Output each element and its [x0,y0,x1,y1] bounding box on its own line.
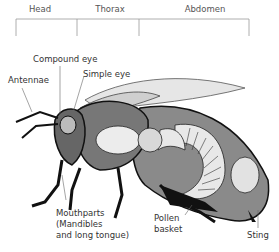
antennae-shape [16,112,58,138]
segment-brackets [16,19,249,36]
antennae-label: Antennae [8,75,49,85]
bee-anatomy-illustration [0,0,279,252]
pollen-basket-label-line1: Pollen [154,213,179,223]
pollen-basket-label-line2: basket [154,224,182,234]
compound-eye-shape [60,116,76,134]
mouthparts-label-line2: (Mandibles [56,219,102,229]
mouthparts-label-line1: Mouthparts [56,208,105,218]
sting-label: Sting [247,230,269,240]
simple-eye-label: Simple eye [83,69,130,79]
compound-eye-label: Compound eye [33,54,97,64]
mouthparts-label-line3: and long tongue) [56,230,129,240]
